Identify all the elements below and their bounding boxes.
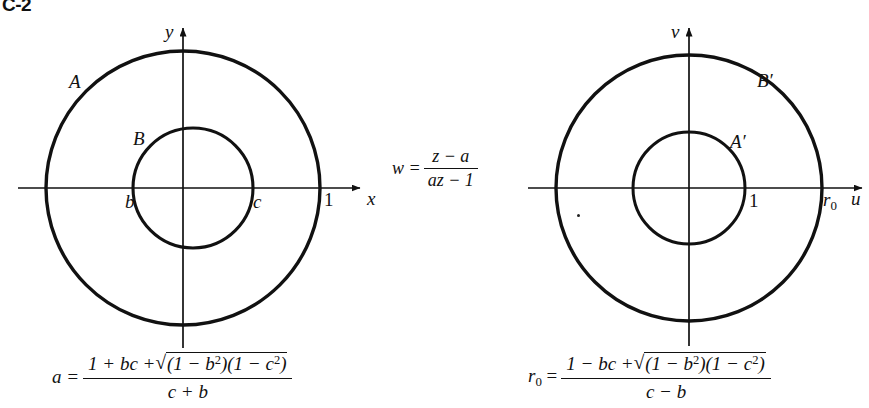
right-outer-circle-label: B′	[757, 71, 773, 90]
formula-a-radical: √(1 − b2)(1 − c2)	[155, 352, 287, 374]
left-inner-circle	[133, 128, 253, 248]
formula-a-radicand-close: )	[280, 353, 286, 374]
formula-r0-numerator: 1 − bc +√(1 − b2)(1 − c2)	[561, 352, 770, 379]
right-tick-label-r0-subscript: 0	[830, 198, 836, 213]
formula-a-radicand-open: (1 − b	[167, 353, 215, 374]
map-formula: w =z − aaz − 1	[392, 146, 478, 191]
formula-a-radicand-mid: )(1 − c	[221, 353, 274, 374]
formula-r0-radicand-mid: )(1 − c	[699, 353, 752, 374]
map-formula-denominator: az − 1	[424, 169, 478, 191]
left-outer-circle-label: A	[69, 72, 81, 91]
right-tick-label-one: 1	[749, 191, 759, 210]
formula-r0-lhs: r0 =	[528, 365, 561, 390]
formula-a-denominator: c + b	[83, 379, 292, 404]
formula-a-fraction: 1 + bc +√(1 − b2)(1 − c2)c + b	[83, 352, 292, 404]
right-outer-circle	[556, 55, 822, 321]
right-inner-circle	[633, 132, 745, 244]
left-outer-circle	[46, 51, 320, 325]
formula-a-numerator: 1 + bc +√(1 − b2)(1 − c2)	[83, 352, 292, 379]
formula-a-num-lead: 1 + bc +	[88, 353, 155, 374]
left-tick-label-one: 1	[324, 190, 334, 209]
formula-r0-radical: √(1 − b2)(1 − c2)	[634, 352, 766, 374]
formula-r0-radicand-close: )	[758, 353, 764, 374]
formula-a-lhs: a =	[52, 366, 83, 389]
left-y-axis-label: y	[165, 22, 173, 41]
left-inner-circle-label: B	[133, 129, 145, 148]
formula-r0-num-lead: 1 − bc +	[566, 353, 633, 374]
map-formula-lhs: w =	[392, 158, 424, 178]
print-speck	[577, 214, 580, 217]
formula-a-radicand: (1 − b2)(1 − c2)	[166, 352, 287, 374]
left-x-axis-label: x	[367, 189, 375, 208]
radical-sign-icon: √	[634, 352, 645, 373]
formula-r0-lhs-subscript: 0	[535, 375, 541, 390]
formula-r0: r0 =1 − bc +√(1 − b2)(1 − c2)c − b	[528, 352, 771, 404]
right-x-axis-label: u	[851, 189, 861, 208]
left-tick-label-c: c	[253, 192, 261, 211]
map-formula-numerator: z − a	[424, 146, 478, 169]
right-inner-circle-label: A′	[730, 132, 746, 151]
formula-r0-fraction: 1 − bc +√(1 − b2)(1 − c2)c − b	[561, 352, 770, 404]
formula-a: a =1 + bc +√(1 − b2)(1 − c2)c + b	[52, 352, 292, 404]
formula-r0-denominator: c − b	[561, 379, 770, 404]
right-tick-label-r0: r0	[823, 190, 837, 213]
left-tick-label-b: b	[125, 192, 135, 211]
formula-r0-radicand-open: (1 − b	[645, 353, 693, 374]
right-plane-group	[528, 28, 862, 346]
radical-sign-icon: √	[155, 352, 166, 373]
right-y-axis-label: v	[671, 22, 679, 41]
map-formula-fraction: z − aaz − 1	[424, 146, 478, 191]
formula-r0-radicand: (1 − b2)(1 − c2)	[644, 352, 765, 374]
figure-tag: C-2	[2, 0, 31, 14]
formula-r0-equals: =	[547, 365, 558, 386]
figure-root: C-2 A B b c 1 x y w =z − aaz − 1	[0, 0, 869, 408]
